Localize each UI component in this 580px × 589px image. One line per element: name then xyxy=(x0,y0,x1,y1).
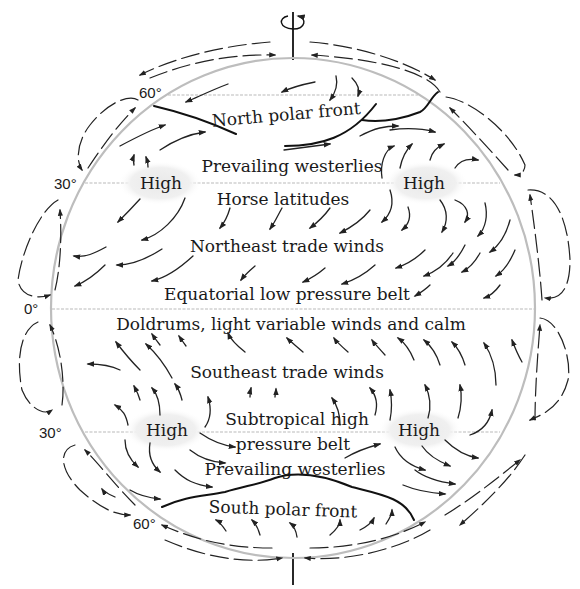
label-high-nw: High xyxy=(140,173,182,193)
label-north-polar-front: North polar front xyxy=(211,98,361,131)
globe-outline xyxy=(51,58,535,558)
label-subtropical-high: Subtropical high xyxy=(225,409,369,429)
label-lat-north-60: 60° xyxy=(139,84,162,101)
label-lat-north-30: 30° xyxy=(54,175,77,192)
label-northeast-trades: Northeast trade winds xyxy=(190,236,384,256)
label-doldrums: Doldrums, light variable winds and calm xyxy=(116,314,466,334)
label-north-westerlies: Prevailing westerlies xyxy=(202,156,383,176)
label-horse-latitudes: Horse latitudes xyxy=(217,189,350,209)
label-south-polar-front: South polar front xyxy=(208,496,357,521)
label-high-ne: High xyxy=(403,173,445,193)
circulation-diagram: 60° 30° 0° 30° 60° North polar front Pre… xyxy=(0,0,580,589)
label-lat-equator: 0° xyxy=(24,300,38,317)
label-high-sw: High xyxy=(146,420,188,440)
label-lat-south-60: 60° xyxy=(133,515,156,532)
label-equatorial-low: Equatorial low pressure belt xyxy=(164,284,410,304)
label-high-se: High xyxy=(398,420,440,440)
label-southeast-trades: Southeast trade winds xyxy=(190,362,384,382)
label-south-westerlies: Prevailing westerlies xyxy=(205,459,386,479)
label-lat-south-30: 30° xyxy=(39,424,62,441)
label-pressure-belt: pressure belt xyxy=(236,434,350,454)
